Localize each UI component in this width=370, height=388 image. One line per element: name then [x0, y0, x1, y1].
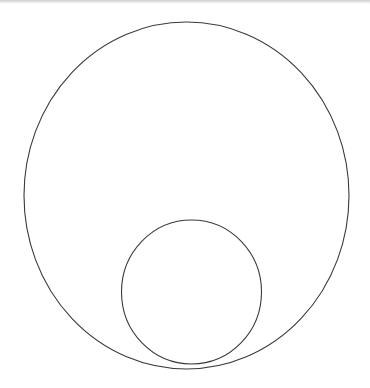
- inner-circle: [122, 220, 262, 364]
- diagram-canvas: [0, 0, 370, 388]
- outer-circle: [24, 22, 349, 369]
